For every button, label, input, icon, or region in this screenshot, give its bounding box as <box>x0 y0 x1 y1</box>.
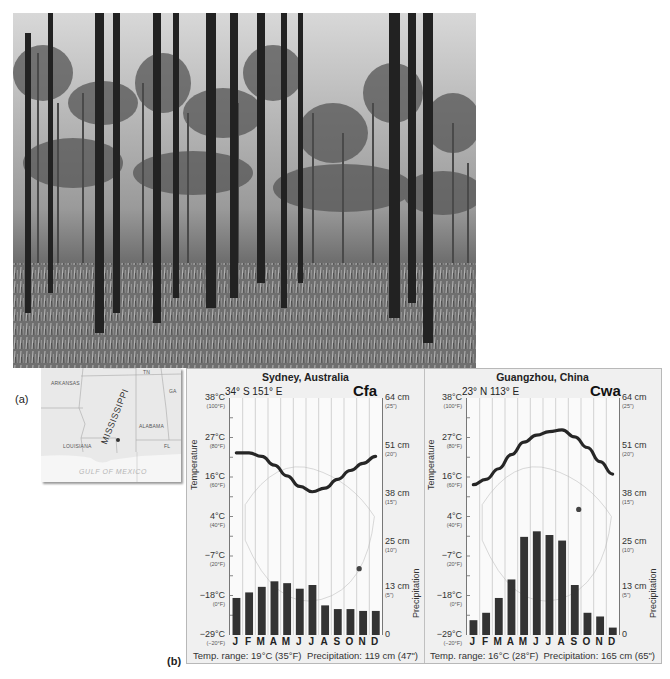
chart-coordinates: 23° N 113° E <box>462 386 519 397</box>
month-label: J <box>305 636 318 647</box>
month-label: M <box>254 636 267 647</box>
month-label: S <box>330 636 343 647</box>
temperature-tick: 27°C(80°F) <box>426 433 462 451</box>
month-label: N <box>593 636 606 647</box>
month-label: N <box>356 636 369 647</box>
temperature-range: Temp. range: 16°C (28°F) <box>430 650 538 661</box>
month-label: J <box>542 636 555 647</box>
temperature-tick: −29°C(−20°F) <box>426 630 462 648</box>
temperature-tick: 27°C(80°F) <box>189 433 225 451</box>
koppen-code: Cwa <box>590 382 621 399</box>
month-label: M <box>517 636 530 647</box>
temperature-range: Temp. range: 19°C (35°F) <box>193 650 301 661</box>
month-label: J <box>229 636 242 647</box>
map-label-tennessee: TN <box>143 369 150 375</box>
precipitation-tick: 38 cm(15") <box>622 489 647 507</box>
koppen-code: Cfa <box>353 382 377 399</box>
climograph-svg <box>230 398 382 635</box>
month-label: M <box>491 636 504 647</box>
month-label: M <box>280 636 293 647</box>
map-label-arkansas: ARKANSAS <box>51 380 80 386</box>
temperature-tick: −29°C(−20°F) <box>189 630 225 648</box>
month-label: O <box>343 636 356 647</box>
precipitation-tick: 64 cm(25") <box>622 393 647 411</box>
precipitation-tick: 51 cm(20") <box>385 441 410 459</box>
month-label: J <box>466 636 479 647</box>
precipitation-tick: 0 <box>385 630 390 639</box>
precipitation-tick: 13 cm(5") <box>385 582 410 600</box>
temperature-tick: 16°C(60°F) <box>189 472 225 490</box>
part-b-label: (b) <box>167 655 181 667</box>
month-label: F <box>242 636 255 647</box>
month-label: O <box>580 636 593 647</box>
month-label: A <box>267 636 280 647</box>
map-label-louisiana: LOUISIANA <box>63 443 91 449</box>
temperature-tick: −7°C(20°F) <box>426 551 462 569</box>
part-a-label: (a) <box>15 393 28 405</box>
month-label: F <box>479 636 492 647</box>
temperature-tick: −18°C(0°F) <box>426 591 462 609</box>
precipitation-axis-title: Precipitation <box>648 568 658 618</box>
temperature-tick: 38°C(100°F) <box>189 393 225 411</box>
chart-title: Guangzhou, China <box>424 371 661 383</box>
temperature-tick: 38°C(100°F) <box>426 393 462 411</box>
temperature-tick: −7°C(20°F) <box>189 551 225 569</box>
temperature-tick: 4°C(40°F) <box>189 512 225 530</box>
map-label-georgia: GA <box>169 388 177 394</box>
month-label: J <box>292 636 305 647</box>
climograph-panel: Sydney, Australia34° S 151° ECfaTemperat… <box>186 368 662 664</box>
precipitation-axis-title: Precipitation <box>411 568 421 618</box>
month-label: A <box>318 636 331 647</box>
location-dot <box>116 438 120 442</box>
plot-area <box>229 398 383 635</box>
month-label: J <box>529 636 542 647</box>
forest-illustration <box>13 13 476 368</box>
map-label-gulf: GULF OF MEXICO <box>79 468 147 475</box>
temperature-tick: 4°C(40°F) <box>426 512 462 530</box>
month-label: D <box>368 636 381 647</box>
plot-area <box>466 398 620 635</box>
month-label: A <box>555 636 568 647</box>
chart-title: Sydney, Australia <box>187 371 424 383</box>
precipitation-total: Precipitation: 165 cm (65") <box>543 650 655 661</box>
chart-coordinates: 34° S 151° E <box>225 386 282 397</box>
precipitation-tick: 51 cm(20") <box>622 441 647 459</box>
map-label-alabama: ALABAMA <box>139 423 164 429</box>
climograph-svg <box>467 398 619 635</box>
mississippi-locator-map: ARKANSAS TN GA MISSISSIPPI ALABAMA LOUIS… <box>41 368 181 482</box>
month-labels: JFMAMJJASOND <box>229 636 381 647</box>
month-label: D <box>605 636 618 647</box>
temperature-tick: −18°C(0°F) <box>189 591 225 609</box>
climograph-sydney: Sydney, Australia34° S 151° ECfaTemperat… <box>187 369 425 663</box>
precipitation-tick: 25 cm(10") <box>622 537 647 555</box>
precipitation-tick: 13 cm(5") <box>622 582 647 600</box>
precipitation-tick: 64 cm(25") <box>385 393 410 411</box>
month-labels: JFMAMJJASOND <box>466 636 618 647</box>
precipitation-tick: 0 <box>622 630 627 639</box>
temperature-tick: 16°C(60°F) <box>426 472 462 490</box>
month-label: S <box>567 636 580 647</box>
precipitation-total: Precipitation: 119 cm (47") <box>307 650 418 661</box>
map-label-florida: FL <box>164 443 170 449</box>
climograph-guangzhou: Guangzhou, China23° N 113° ECwaTemperatu… <box>424 369 661 663</box>
month-label: A <box>504 636 517 647</box>
pine-forest-photo <box>13 13 476 368</box>
precipitation-tick: 25 cm(10") <box>385 537 410 555</box>
precipitation-tick: 38 cm(15") <box>385 489 410 507</box>
